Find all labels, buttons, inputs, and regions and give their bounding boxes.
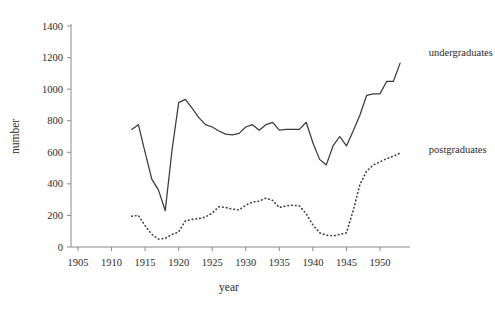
x-tick-label: 1950 bbox=[370, 257, 391, 268]
x-tick-label: 1930 bbox=[235, 257, 256, 268]
axes-group bbox=[71, 24, 410, 247]
y-tick-label: 400 bbox=[47, 178, 63, 189]
x-tick-label: 1915 bbox=[135, 257, 156, 268]
chart-container: 0200400600800100012001400 19051910191519… bbox=[0, 0, 495, 315]
x-tick-label: 1945 bbox=[336, 257, 357, 268]
tick-marks-group bbox=[67, 26, 380, 251]
series-group bbox=[132, 63, 400, 239]
series-labels-group: undergraduatespostgraduates bbox=[429, 47, 493, 155]
y-tick-label: 1200 bbox=[42, 52, 63, 63]
y-tick-label: 800 bbox=[47, 115, 63, 126]
x-axis-title: year bbox=[219, 281, 239, 294]
y-tick-label: 1400 bbox=[42, 21, 63, 32]
x-tick-label: 1920 bbox=[168, 257, 189, 268]
y-tick-label: 200 bbox=[47, 210, 63, 221]
series-label-undergraduates: undergraduates bbox=[429, 47, 493, 58]
y-tick-label: 1000 bbox=[42, 84, 63, 95]
x-tick-label: 1925 bbox=[202, 257, 223, 268]
x-tick-label: 1905 bbox=[68, 257, 89, 268]
y-tick-label: 600 bbox=[47, 147, 63, 158]
x-tick-label: 1940 bbox=[302, 257, 323, 268]
line-chart: 0200400600800100012001400 19051910191519… bbox=[0, 0, 495, 315]
y-tick-labels-group: 0200400600800100012001400 bbox=[42, 21, 63, 253]
y-axis-title: number bbox=[9, 119, 21, 154]
series-line-postgraduates bbox=[132, 153, 400, 239]
series-line-undergraduates bbox=[132, 63, 400, 211]
y-tick-label: 0 bbox=[58, 242, 63, 253]
series-label-postgraduates: postgraduates bbox=[429, 144, 487, 155]
x-tick-label: 1935 bbox=[269, 257, 290, 268]
x-tick-label: 1910 bbox=[101, 257, 122, 268]
x-tick-labels-group: 1905191019151920192519301935194019451950 bbox=[68, 257, 391, 268]
